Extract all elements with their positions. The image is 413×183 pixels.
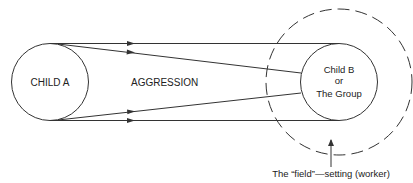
arrow-icon	[127, 50, 135, 55]
child-a-label: CHILD A	[31, 77, 70, 88]
child-b-label-line-3: The Group	[316, 88, 361, 99]
lower-diagonal-line	[58, 93, 301, 120]
aggression-label: AGGRESSION	[131, 77, 198, 88]
child-b-label-line-2: or	[335, 75, 343, 86]
upper-diagonal-line	[58, 44, 301, 73]
arrow-icon	[127, 41, 135, 46]
arrow-icon	[127, 118, 135, 123]
field-caption: The “field”—setting (worker)	[272, 168, 390, 179]
aggression-field-diagram: CHILD A AGGRESSION Child B or The Group …	[0, 0, 413, 183]
child-b-label-line-1: Child B	[324, 64, 355, 75]
